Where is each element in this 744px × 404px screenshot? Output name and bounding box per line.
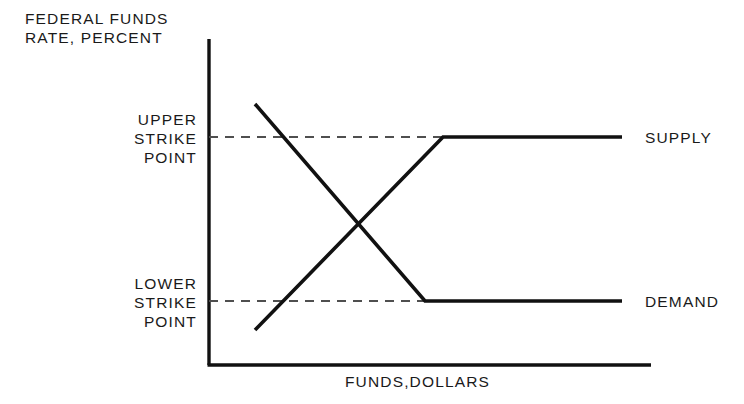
supply-demand-diagram	[0, 0, 744, 404]
supply-series-label: SUPPLY	[645, 128, 712, 147]
lower-strike-point-label: LOWER STRIKE POINT	[134, 274, 197, 331]
figure-background	[0, 0, 744, 404]
demand-series-label: DEMAND	[645, 292, 719, 311]
x-axis-title: FUNDS,DOLLARS	[345, 372, 490, 391]
upper-strike-point-label: UPPER STRIKE POINT	[134, 110, 197, 167]
y-axis-title: FEDERAL FUNDS RATE, PERCENT	[25, 9, 169, 47]
